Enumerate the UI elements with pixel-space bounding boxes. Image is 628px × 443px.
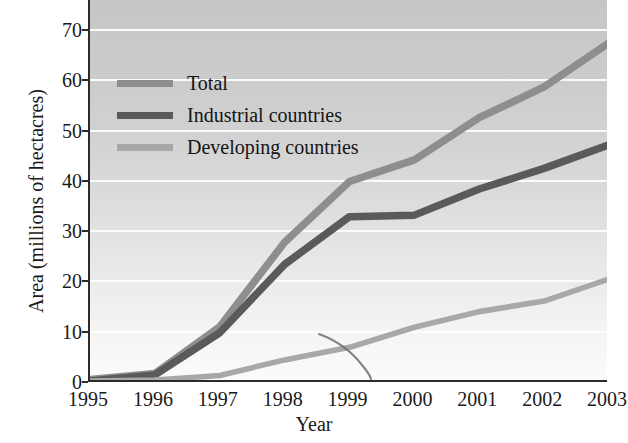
y-tick-mark	[82, 230, 88, 232]
x-tick-label: 2003	[572, 388, 628, 410]
legend-label: Industrial countries	[187, 104, 342, 126]
y-tick-label: 30	[44, 221, 82, 241]
y-tick-label: 40	[44, 171, 82, 191]
y-tick-label: 60	[44, 70, 82, 90]
x-tick-label: 1995	[53, 388, 123, 410]
legend-item: Industrial countries	[117, 104, 359, 126]
legend-item: Total	[117, 72, 359, 94]
x-axis-title: Year	[0, 413, 628, 435]
y-tick-mark	[82, 79, 88, 81]
line-chart: 010203040506070 Area (millions of hectac…	[0, 0, 628, 443]
legend: TotalIndustrial countriesDeveloping coun…	[117, 72, 359, 158]
y-tick-mark	[82, 381, 88, 383]
y-tick-label: 20	[44, 271, 82, 291]
y-tick-mark	[82, 280, 88, 282]
y-axis: 010203040506070	[0, 0, 628, 443]
x-tick-label: 1997	[183, 388, 253, 410]
legend-swatch-icon	[117, 112, 173, 119]
x-tick-label: 2000	[377, 388, 447, 410]
legend-label: Total	[187, 72, 228, 94]
y-tick-mark	[82, 180, 88, 182]
x-tick-label: 1999	[313, 388, 383, 410]
x-tick-label: 2001	[442, 388, 512, 410]
y-axis-title: Area (millions of hectacres)	[25, 36, 47, 366]
x-tick-label: 2002	[507, 388, 577, 410]
x-tick-label: 1998	[248, 388, 318, 410]
legend-item: Developing countries	[117, 136, 359, 158]
legend-swatch-icon	[117, 80, 173, 87]
legend-label: Developing countries	[187, 136, 359, 158]
y-tick-mark	[82, 331, 88, 333]
y-tick-label: 70	[44, 20, 82, 40]
y-tick-label: 50	[44, 121, 82, 141]
x-tick-label: 1996	[118, 388, 188, 410]
y-tick-label: 10	[44, 322, 82, 342]
y-tick-mark	[82, 29, 88, 31]
legend-swatch-icon	[117, 144, 173, 151]
y-tick-mark	[82, 130, 88, 132]
